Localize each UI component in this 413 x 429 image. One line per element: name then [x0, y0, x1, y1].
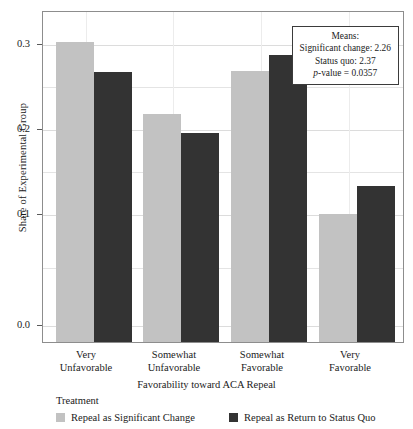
legend-swatch-icon-significant-change [56, 413, 65, 422]
legend-swatch-icon-status-quo [229, 413, 238, 422]
plot-panel: Means: Significant change: 2.26 Status q… [42, 11, 404, 343]
p-value-text: -value = 0.0357 [318, 68, 377, 78]
bar-very-unfavorable-significant-change [56, 42, 94, 342]
legend-title: Treatment [56, 395, 99, 406]
bar-somewhat-unfavorable-significant-change [143, 114, 181, 342]
x-axis-title: Favorability toward ACA Repeal [0, 379, 413, 390]
bar-very-favorable-significant-change [319, 214, 357, 342]
bar-somewhat-favorable-status-quo [269, 55, 307, 342]
y-tick-label-0.3: 0.3 [0, 39, 30, 50]
x-tick-line-1: Very [295, 349, 405, 362]
bar-somewhat-unfavorable-status-quo [181, 133, 219, 342]
y-axis-title: Share of Experimental Group [17, 58, 28, 278]
x-tick-line-2: Favorable [295, 362, 405, 375]
bar-very-unfavorable-status-quo [94, 72, 132, 342]
bar-chart-figure: Share of Experimental Group 0.3 0.2 0.1 … [0, 0, 413, 429]
means-annotation-box: Means: Significant change: 2.26 Status q… [292, 26, 399, 85]
y-tick-label-0.1: 0.1 [0, 209, 30, 220]
means-status-quo: Status quo: 2.37 [300, 55, 391, 67]
legend-label-status-quo: Repeal as Return to Status Quo [244, 412, 376, 423]
means-p-value: p-value = 0.0357 [300, 67, 391, 79]
bar-somewhat-favorable-significant-change [231, 71, 269, 342]
y-tick-label-0.2: 0.2 [0, 124, 30, 135]
legend-label-significant-change: Repeal as Significant Change [71, 412, 195, 423]
means-significant-change: Significant change: 2.26 [300, 42, 391, 54]
legend-item-significant-change[interactable]: Repeal as Significant Change [56, 412, 195, 423]
y-tick-label-0.0: 0.0 [0, 320, 30, 331]
means-heading: Means: [300, 30, 391, 42]
legend-item-status-quo[interactable]: Repeal as Return to Status Quo [229, 412, 376, 423]
bar-very-favorable-status-quo [357, 186, 395, 342]
x-tick-label-very-favorable: Very Favorable [295, 349, 405, 375]
